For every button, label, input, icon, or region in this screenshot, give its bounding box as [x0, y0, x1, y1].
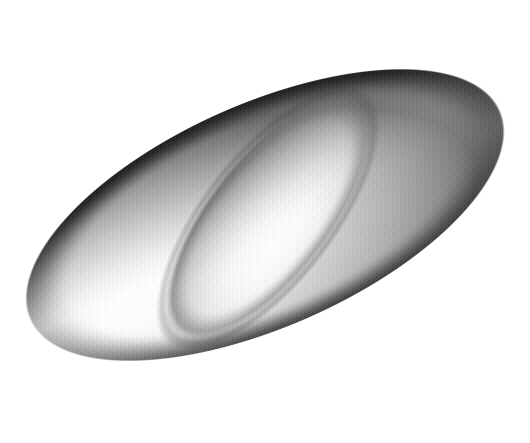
surface-render-canvas: [0, 0, 530, 443]
figure-root: A smooth elongated three-dimensional sur…: [0, 0, 530, 443]
